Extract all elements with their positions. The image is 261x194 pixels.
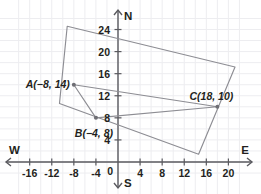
y-tick-label: 20 xyxy=(98,46,110,58)
compass-label-east: E xyxy=(241,144,249,156)
x-tick-label: 8 xyxy=(159,167,165,179)
x-tick-label: 20 xyxy=(223,167,235,179)
point-label-c: C(18, 10) xyxy=(189,90,233,102)
x-tick-label: 12 xyxy=(178,167,190,179)
origin-label: 0 xyxy=(107,165,113,177)
vertex-point-b xyxy=(94,116,98,120)
x-tick-label: -8 xyxy=(69,167,78,179)
coordinate-plane-diagram: -16-12-8-44812162048121620240WENSA(−8, 1… xyxy=(0,0,261,194)
x-tick-label: -4 xyxy=(91,167,100,179)
point-label-b: B(−4, 8) xyxy=(75,127,114,139)
compass-label-south: S xyxy=(124,177,132,189)
y-tick-label: 24 xyxy=(98,24,110,36)
x-tick-label: -12 xyxy=(44,167,59,179)
x-tick-label: -16 xyxy=(22,167,37,179)
y-tick-label: 16 xyxy=(98,68,110,80)
x-tick-label: 4 xyxy=(137,167,143,179)
vertex-point-c xyxy=(215,105,219,109)
coordinate-plot-svg: -16-12-8-44812162048121620240WENSA(−8, 1… xyxy=(0,0,261,194)
compass-label-north: N xyxy=(124,10,132,22)
y-tick-label: 12 xyxy=(98,90,110,102)
vertex-point-a xyxy=(72,83,76,87)
point-label-a: A(−8, 14) xyxy=(25,78,71,90)
x-tick-label: 16 xyxy=(200,167,212,179)
compass-label-west: W xyxy=(9,144,20,156)
y-tick-label: 8 xyxy=(104,112,110,124)
